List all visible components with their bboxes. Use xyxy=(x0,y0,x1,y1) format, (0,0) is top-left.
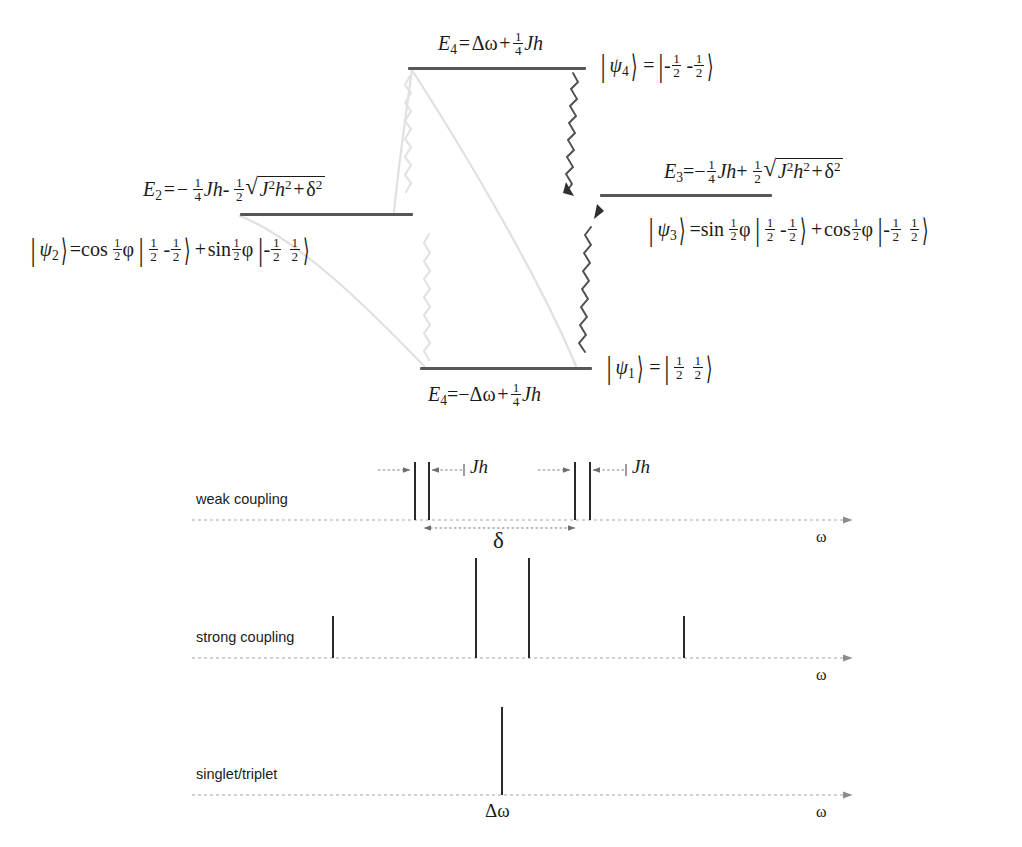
peak-weak-4 xyxy=(589,462,591,520)
spectrum-label-strong-coupling: strong coupling xyxy=(196,629,294,645)
spectrum-label-weak-coupling: weak coupling xyxy=(196,491,288,507)
axis-label-omega-strong: ω xyxy=(816,666,827,684)
peak-singlet-triplet-1 xyxy=(501,707,503,795)
state-expression-psi1: | ψ1⟩ = | 12 12⟩ xyxy=(606,354,715,382)
peak-strong-3 xyxy=(528,558,530,658)
level-splitting-connectors xyxy=(240,70,576,366)
state-expression-psi4: | ψ4⟩ = |-12 -12⟩ xyxy=(600,52,716,80)
annotation-delta-omega: Δω xyxy=(485,800,510,822)
level-bar-psi3 xyxy=(600,194,772,197)
jh-brace-guides xyxy=(464,464,626,476)
peak-weak-2 xyxy=(428,462,430,520)
energy-expression-psi2: E2 = − 14Jh- 12√J2h2 + δ2 xyxy=(143,176,325,204)
peak-strong-2 xyxy=(475,558,477,658)
annotation-jh-left: Jh xyxy=(470,456,488,478)
transition-1-2 xyxy=(424,234,430,360)
peak-weak-3 xyxy=(574,462,576,520)
annotation-delta: δ xyxy=(493,528,504,554)
energy-expression-psi4: E4 = Δω + 14Jh xyxy=(438,30,543,58)
state-expression-psi2: | ψ2⟩=cos 12φ | 12 -12⟩ + sin12φ |-12 12… xyxy=(30,236,312,264)
annotation-jh-right: Jh xyxy=(632,456,650,478)
energy-expression-psi1: E4=−Δω + 14Jh xyxy=(428,381,541,409)
transition-4-2 xyxy=(405,76,411,192)
energy-expression-psi3: E3=−14Jh+ 12√J2h2 + δ2 xyxy=(664,158,843,186)
peak-strong-1 xyxy=(332,616,334,658)
peak-weak-1 xyxy=(414,462,416,520)
transition-arrows xyxy=(405,73,604,360)
level-bar-psi2 xyxy=(240,213,413,216)
spectrum-label-singlet-triplet: singlet/triplet xyxy=(196,766,277,782)
spectrum-axes xyxy=(192,520,852,795)
transition-1-3 xyxy=(579,227,591,352)
level-bar-psi1 xyxy=(420,367,592,370)
state-expression-psi3: | ψ3⟩ =sin 12φ | 12 -12⟩ + cos12φ |-12 1… xyxy=(648,216,931,244)
axis-label-omega-singlet-triplet: ω xyxy=(816,803,827,821)
axis-label-omega-weak: ω xyxy=(816,528,827,546)
diagram-vector-layer xyxy=(0,0,1022,847)
level-bar-psi4 xyxy=(408,67,586,70)
figure-canvas: E4 = Δω + 14Jh | ψ4⟩ = |-12 -12⟩ E2 = − … xyxy=(0,0,1022,847)
transition-4-3 xyxy=(566,73,578,191)
peak-strong-4 xyxy=(683,616,685,658)
